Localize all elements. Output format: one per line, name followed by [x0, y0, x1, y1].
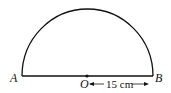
arrow-right-icon: [144, 82, 149, 86]
label-a: A: [9, 71, 18, 85]
semicircle-diagram: A B O 15 cm: [0, 0, 171, 93]
semicircle-arc: [22, 9, 153, 76]
arrow-left-icon: [89, 82, 94, 86]
label-o: O: [80, 77, 89, 91]
radius-label: 15 cm: [106, 78, 134, 90]
label-b: B: [155, 71, 163, 85]
